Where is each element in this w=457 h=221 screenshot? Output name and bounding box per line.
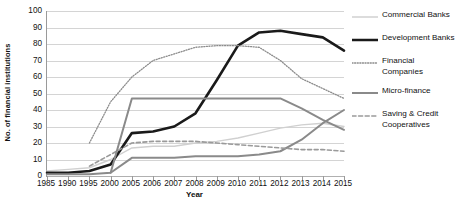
y-tick-label: 80 [16,40,42,48]
y-tick-label: 100 [16,7,42,15]
x-tick-label: 2010 [228,179,246,188]
y-tick-label: 30 [16,123,42,131]
y-tick-label: 10 [16,156,42,164]
x-tick-label: 2007 [164,179,182,188]
x-tick-label: 2015 [334,179,352,188]
legend-item[interactable]: Micro-finance [352,86,456,100]
legend-swatch-icon [352,10,378,24]
series-line [89,46,344,143]
y-tick-label: 60 [16,73,42,81]
line-chart: No. of financial institutions 0102030405… [0,0,457,221]
legend-label: Development Banks [382,33,454,44]
legend-item[interactable]: Commercial Banks [352,10,456,24]
legend-item[interactable]: Development Banks [352,33,456,47]
series-line [89,141,344,166]
x-axis-title: Year [46,190,343,199]
legend-swatch-icon [352,86,378,100]
x-tick-label: 1985 [37,179,55,188]
legend-label: Financial Companies [382,56,456,77]
x-tick-label: 2014 [313,179,331,188]
legend-item[interactable]: Financial Companies [352,56,456,77]
legend-swatch-icon [352,33,378,47]
series-layer [47,11,344,176]
x-tick-label: 2012 [270,179,288,188]
plot-area [46,11,344,177]
y-tick-label: 20 [16,139,42,147]
y-tick-label: 70 [16,57,42,65]
y-tick-label: 50 [16,90,42,98]
y-axis-title: No. of financial institutions [1,12,15,172]
y-tick-label: 90 [16,24,42,32]
x-tick-label: 2008 [185,179,203,188]
x-tick-label: 2005 [122,179,140,188]
x-tick-label: 2000 [101,179,119,188]
legend-swatch-icon [352,109,378,123]
series-line [47,31,344,173]
x-tick-label: 2009 [207,179,225,188]
series-line [47,123,344,171]
legend-item[interactable]: Saving & Credit Cooperatives [352,109,456,130]
y-tick-label: 40 [16,106,42,114]
series-line [111,98,344,172]
legend-label: Saving & Credit Cooperatives [382,109,456,130]
y-axis-title-label: No. of financial institutions [4,43,13,141]
legend-swatch-icon [352,56,378,70]
x-tick-label: 1990 [58,179,76,188]
x-tick-label: 2006 [143,179,161,188]
x-tick-label: 2011 [249,179,267,188]
legend-label: Micro-finance [382,86,431,97]
legend-label: Commercial Banks [382,10,450,21]
x-tick-label: 2013 [291,179,309,188]
legend: Commercial BanksDevelopment BanksFinanci… [352,10,456,139]
x-tick-label: 1995 [79,179,97,188]
